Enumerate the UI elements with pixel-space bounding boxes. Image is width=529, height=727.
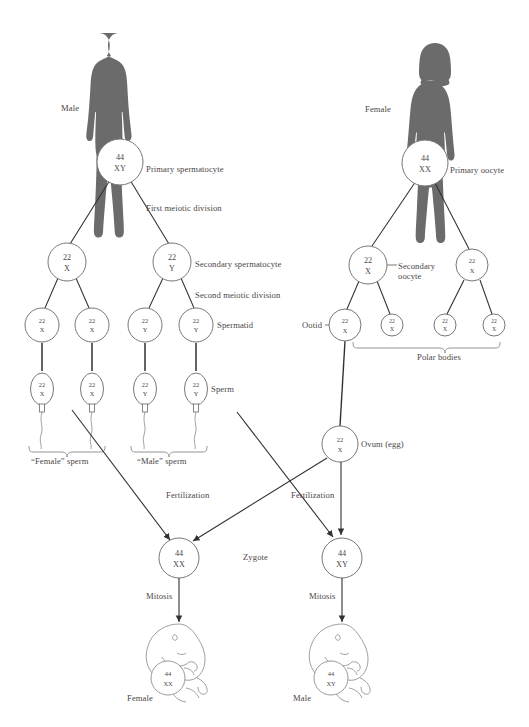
offspring-female-label: Female (127, 693, 153, 703)
cell-chromosome-count: 22 (142, 317, 148, 324)
offspring-male-karyotype-cell (314, 661, 348, 695)
ovum-label: Ovum (egg) (361, 439, 404, 449)
cell-chromosome-count: 22 (491, 318, 497, 324)
second-meiotic-division-label: Second meiotic division (195, 290, 280, 300)
spermatid-cell (128, 308, 162, 342)
cell-chromosome-count: 44 (421, 154, 429, 163)
cell-sex-chromosomes: Y (143, 390, 148, 397)
cell-sex-chromosomes: X (90, 390, 95, 397)
spermatid-cell (25, 308, 59, 342)
cell-chromosome-count: 22 (39, 317, 45, 324)
cell-chromosome-count: 22 (364, 256, 372, 265)
cell-chromosome-count: 22 (469, 257, 475, 264)
cell-sex-chromosomes: X (470, 267, 475, 274)
cell-chromosome-count: 22 (342, 317, 348, 324)
cell-sex-chromosomes: Y (194, 390, 199, 397)
mitosis-label-male: Mitosis (309, 591, 336, 601)
cell-chromosome-count: 44 (175, 549, 183, 558)
secondary-oocyte-cell (456, 249, 488, 281)
cell-chromosome-count: 22 (193, 317, 199, 324)
cell-chromosome-count: 22 (89, 381, 95, 388)
cell-sex-chromosomes: X (492, 326, 496, 332)
secondary-spermatocyte-cell (48, 243, 86, 281)
spermatid-cell (179, 308, 213, 342)
female-cells (322, 140, 505, 462)
offspring-female-karyotype-cell (151, 661, 185, 695)
cell-chromosome-count: 22 (337, 436, 343, 443)
sperm-to-female-zygote-arrow (72, 410, 170, 540)
offspring-male-label: Male (293, 693, 311, 703)
secondary-oocyte-cell (349, 246, 387, 284)
cell-sex-chromosomes: X (338, 446, 343, 453)
fertilization-label-left: Fertilization (166, 490, 209, 500)
male-person-label: Male (61, 103, 79, 113)
cell-chromosome-count: 22 (39, 381, 45, 388)
cell-sex-chromosomes: X (390, 326, 394, 332)
cell-chromosome-count: 44 (165, 670, 172, 677)
cell-sex-chromosomes: Y (169, 264, 175, 273)
meiosis-fertilization-diagram: 44 XY 22 X 22 Y 22 X 22 X 22 Y 22 Y 22 X… (0, 0, 529, 727)
cell-chromosome-count: 22 (89, 317, 95, 324)
ovum-cell (322, 426, 358, 462)
zygote-female-cell (159, 538, 199, 578)
cell-chromosome-count: 22 (168, 253, 176, 262)
cell-sex-chromosomes: XY (114, 164, 126, 173)
cell-sex-chromosomes: XY (336, 560, 348, 569)
cell-chromosome-count: 22 (142, 381, 148, 388)
ootid-label: Ootid (302, 320, 322, 330)
cell-sex-chromosomes: XX (173, 560, 185, 569)
fertilization-arrows (72, 410, 341, 541)
cell-chromosome-count: 22 (63, 253, 71, 262)
female-lineage-lines (340, 181, 492, 426)
zygote-male-cell (322, 538, 362, 578)
cell-sex-chromosomes: Y (143, 326, 148, 333)
primary-oocyte-label: Primary oocyte (450, 165, 504, 175)
cell-sex-chromosomes: Y (194, 326, 199, 333)
sperm-label: Sperm (211, 384, 234, 394)
secondary-spermatocyte-cell (153, 243, 191, 281)
cell-chromosome-count: 44 (116, 153, 124, 162)
spermatid-label: Spermatid (217, 320, 253, 330)
cell-chromosome-count: 22 (389, 318, 395, 324)
mitosis-label-female: Mitosis (146, 591, 173, 601)
cell-sex-chromosomes: X (343, 327, 348, 334)
male-sperm-brace-label: “Male” sperm (137, 456, 187, 466)
secondary-oocyte-label: Secondary oocyte (398, 261, 442, 281)
cell-sex-chromosomes: X (40, 390, 45, 397)
cell-chromosome-count: 22 (193, 381, 199, 388)
cell-sex-chromosomes: X (443, 326, 447, 332)
ootid-cell (329, 309, 361, 341)
primary-spermatocyte-cell (97, 139, 143, 185)
first-meiotic-division-label: First meiotic division (146, 203, 222, 213)
spermatid-cell (75, 308, 109, 342)
cell-sex-chromosomes: XX (419, 165, 431, 174)
female-person-label: Female (365, 104, 391, 114)
cell-sex-chromosomes: X (90, 326, 95, 333)
polar-bodies-label: Polar bodies (417, 352, 461, 362)
primary-spermatocyte-label: Primary spermatocyte (146, 164, 224, 174)
cell-sex-chromosomes: X (365, 267, 371, 276)
cell-sex-chromosomes: X (64, 264, 70, 273)
cell-chromosome-count: 44 (328, 670, 335, 677)
cell-sex-chromosomes: X (40, 326, 45, 333)
female-sperm-brace-label: “Female” sperm (31, 456, 88, 466)
cell-sex-chromosomes: XX (163, 680, 173, 687)
primary-oocyte-cell (402, 140, 448, 186)
diagram-canvas: 44 XY 22 X 22 Y 22 X 22 X 22 Y 22 Y 22 X… (0, 0, 529, 727)
zygote-label: Zygote (243, 552, 268, 562)
sperm-to-male-zygote-arrow (237, 412, 333, 537)
cell-chromosome-count: 22 (442, 318, 448, 324)
cell-chromosome-count: 44 (338, 549, 346, 558)
secondary-spermatocyte-label: Secondary spermatocyte (195, 259, 281, 269)
sperm-cells (31, 373, 208, 449)
fertilization-label-right: Fertilization (291, 490, 334, 500)
cell-sex-chromosomes: XY (326, 680, 336, 687)
